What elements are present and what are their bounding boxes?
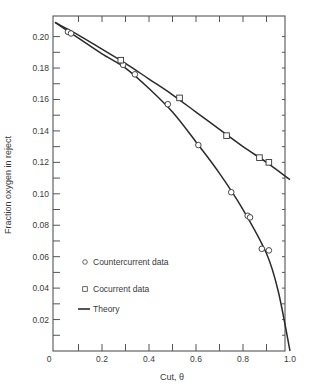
- x-tick-label: 0.4: [143, 354, 155, 364]
- cocurrent-point: [224, 133, 230, 139]
- legend-square-icon: [83, 287, 88, 292]
- y-tick-label: 0.12: [32, 157, 49, 167]
- y-tick-label: 0.06: [32, 252, 49, 262]
- x-tick-label: 0.2: [96, 354, 108, 364]
- data-points: [65, 29, 272, 253]
- x-axis-label: Cut, θ: [160, 372, 184, 382]
- countercurrent-point: [165, 101, 171, 107]
- legend-label: Countercurrent data: [93, 257, 169, 267]
- y-tick-label: 0.10: [32, 189, 49, 199]
- countercurrent-point: [247, 215, 253, 221]
- countercurrent-point: [259, 246, 265, 252]
- x-tick-label: 1.0: [284, 354, 296, 364]
- y-tick-label: 0.08: [32, 220, 49, 230]
- theory-curves: [55, 22, 290, 351]
- cocurrent-point: [177, 95, 183, 101]
- axes-box: [53, 16, 285, 351]
- y-tick-label: 0.20: [32, 32, 49, 42]
- legend-label: Cocurrent data: [93, 284, 149, 294]
- cocurrent-point: [257, 155, 263, 161]
- chart: 0.020.040.060.080.100.120.140.160.180.20…: [0, 0, 314, 390]
- y-tick-label: 0.04: [32, 283, 49, 293]
- y-tick-label: 0.16: [32, 94, 49, 104]
- countercurrent-point: [266, 248, 272, 254]
- countercurrent-point: [228, 189, 234, 195]
- legend-label: Theory: [93, 304, 120, 314]
- countercurrent-point: [132, 72, 138, 78]
- theory-curve: [55, 22, 290, 351]
- y-tick-label: 0.18: [32, 63, 49, 73]
- y-tick-label: 0.02: [32, 315, 49, 325]
- legend-circle-icon: [83, 260, 88, 265]
- legend: Countercurrent dataCocurrent dataTheory: [78, 257, 169, 314]
- y-axis-ticks: 0.020.040.060.080.100.120.140.160.180.20…: [32, 32, 285, 364]
- cocurrent-point: [118, 57, 124, 63]
- x-tick-label: 0.8: [237, 354, 249, 364]
- cocurrent-point: [266, 160, 272, 166]
- countercurrent-point: [68, 31, 74, 37]
- origin-label: 0: [47, 354, 52, 364]
- y-axis-label: Fraction oxygen in reject: [3, 135, 13, 234]
- x-tick-label: 0.6: [190, 354, 202, 364]
- y-tick-label: 0.14: [32, 126, 49, 136]
- plot-frame: [53, 16, 285, 351]
- countercurrent-point: [196, 142, 202, 148]
